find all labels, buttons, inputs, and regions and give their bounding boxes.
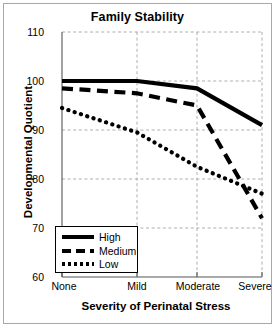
legend-swatch-dashed-icon <box>62 249 94 253</box>
series-line-low <box>62 108 262 194</box>
chart-figure: Family Stability Developmental Quotient … <box>0 0 275 327</box>
legend-label-medium: Medium <box>99 245 136 258</box>
grid-vertical <box>137 32 262 277</box>
legend-item-low: Low <box>62 258 136 271</box>
legend-item-medium: Medium <box>62 245 136 258</box>
chart-legend: High Medium Low <box>55 226 138 273</box>
legend-item-high: High <box>62 231 136 244</box>
legend-swatch-solid-icon <box>62 235 94 239</box>
plot-area <box>0 0 275 327</box>
legend-swatch-dotted-icon <box>62 262 94 266</box>
grid-horizontal <box>62 32 262 228</box>
legend-label-low: Low <box>99 258 118 271</box>
legend-label-high: High <box>99 231 121 244</box>
